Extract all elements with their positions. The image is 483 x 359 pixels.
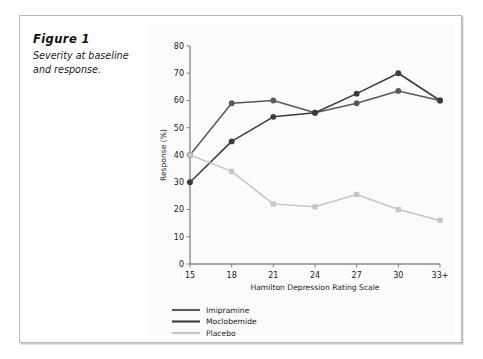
x-tick-label: 33+ (432, 271, 449, 280)
figure-caption-block: Figure 1 Severity at baseline and respon… (33, 32, 145, 76)
x-tick-label: 27 (352, 271, 362, 280)
chart-axes (190, 46, 440, 264)
y-tick-label: 50 (174, 124, 184, 133)
y-tick-label: 10 (174, 233, 184, 242)
x-axis-title: Hamilton Depression Rating Scale (250, 283, 379, 292)
data-point-marker (270, 98, 276, 104)
data-point-marker (187, 179, 193, 185)
y-axis-title: Response (%) (159, 129, 168, 181)
data-point-marker (229, 138, 235, 144)
chart-series (187, 152, 442, 223)
data-point-marker (354, 91, 360, 97)
chart-series (187, 70, 443, 185)
data-point-marker (396, 207, 401, 212)
line-chart: 01020304050607080 15182124273033+ Hamilt… (148, 24, 454, 336)
y-tick-label: 80 (174, 42, 184, 51)
data-point-marker (437, 218, 442, 223)
figure-frame: Figure 1 Severity at baseline and respon… (19, 15, 462, 343)
chart-series-group (187, 70, 443, 223)
y-tick-label: 30 (174, 178, 184, 187)
legend-label: Moclobemide (206, 317, 257, 326)
data-point-marker (271, 201, 276, 206)
data-point-marker (312, 204, 317, 209)
data-point-marker (229, 100, 235, 106)
figure-caption-text: Severity at baseline and response. (33, 49, 145, 76)
chart-legend: ImipramineMoclobemidePlacebo (172, 306, 257, 336)
figure-number: Figure 1 (33, 32, 145, 46)
y-tick-label: 0 (179, 260, 184, 269)
data-point-marker (270, 114, 276, 120)
data-point-marker (437, 98, 443, 104)
x-tick-label: 15 (185, 271, 195, 280)
chart-panel: 01020304050607080 15182124273033+ Hamilt… (148, 24, 454, 336)
data-point-marker (312, 110, 318, 116)
x-axis-tick-labels: 15182124273033+ (185, 264, 449, 280)
y-tick-label: 20 (174, 205, 184, 214)
data-point-marker (395, 88, 401, 94)
legend-label: Placebo (206, 329, 236, 336)
x-tick-label: 18 (227, 271, 237, 280)
y-tick-label: 40 (174, 151, 184, 160)
data-point-marker (395, 70, 401, 76)
x-tick-label: 30 (393, 271, 403, 280)
legend-label: Imipramine (206, 306, 250, 315)
x-tick-label: 24 (310, 271, 320, 280)
data-point-marker (187, 152, 192, 157)
data-point-marker (229, 169, 234, 174)
data-point-marker (354, 192, 359, 197)
data-point-marker (354, 100, 360, 106)
y-tick-label: 60 (174, 96, 184, 105)
x-tick-label: 21 (268, 271, 278, 280)
y-tick-label: 70 (174, 69, 184, 78)
